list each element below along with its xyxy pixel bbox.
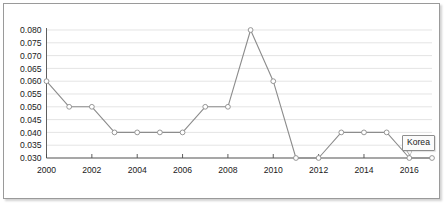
data-point-marker[interactable]: [362, 130, 367, 135]
data-point-marker[interactable]: [316, 156, 321, 161]
x-tick-label: 2014: [354, 165, 373, 175]
chart-canvas: 0.0300.0350.0400.0450.0500.0550.0600.065…: [4, 4, 441, 200]
x-axis-tick-labels: 200020022004200620082010201220142016: [37, 165, 419, 175]
data-point-marker[interactable]: [294, 156, 299, 161]
y-tick-label: 0.060: [20, 76, 42, 86]
data-point-marker[interactable]: [271, 79, 276, 84]
data-point-marker[interactable]: [384, 130, 389, 135]
y-tick-label: 0.055: [20, 89, 42, 99]
data-point-marker[interactable]: [407, 156, 412, 161]
y-tick-label: 0.080: [20, 25, 42, 35]
x-tick-label: 2006: [173, 165, 192, 175]
data-point-marker[interactable]: [203, 104, 208, 109]
data-point-marker[interactable]: [226, 104, 231, 109]
y-tick-label: 0.040: [20, 128, 42, 138]
data-point-marker[interactable]: [135, 130, 140, 135]
y-tick-label: 0.065: [20, 64, 42, 74]
y-tick-label: 0.045: [20, 115, 42, 125]
x-tick-label: 2000: [37, 165, 56, 175]
gridlines: [47, 30, 433, 158]
y-tick-label: 0.035: [20, 140, 42, 150]
data-point-marker[interactable]: [339, 130, 344, 135]
line-chart: 0.0300.0350.0400.0450.0500.0550.0600.065…: [4, 4, 441, 200]
data-point-marker[interactable]: [180, 130, 185, 135]
data-point-marker[interactable]: [112, 130, 117, 135]
x-tick-label: 2012: [309, 165, 328, 175]
x-tick-label: 2016: [400, 165, 419, 175]
y-tick-label: 0.075: [20, 38, 42, 48]
data-point-marker[interactable]: [430, 156, 435, 161]
data-point-marker[interactable]: [67, 104, 72, 109]
x-tick-label: 2002: [82, 165, 101, 175]
y-tick-label: 0.070: [20, 51, 42, 61]
data-point-marker[interactable]: [44, 79, 49, 84]
x-tick-label: 2004: [128, 165, 147, 175]
x-tick-label: 2008: [218, 165, 237, 175]
x-tick-label: 2010: [264, 165, 283, 175]
y-axis-tick-labels: 0.0300.0350.0400.0450.0500.0550.0600.065…: [20, 25, 42, 163]
data-point-marker[interactable]: [89, 104, 94, 109]
chart-frame: 0.0300.0350.0400.0450.0500.0550.0600.065…: [3, 3, 440, 199]
series-callout-korea[interactable]: Korea: [402, 135, 435, 151]
y-tick-label: 0.050: [20, 102, 42, 112]
y-tick-label: 0.030: [20, 153, 42, 163]
data-point-marker[interactable]: [248, 28, 253, 33]
callout-label: Korea: [407, 137, 430, 147]
data-point-marker[interactable]: [157, 130, 162, 135]
axes: [47, 28, 433, 158]
